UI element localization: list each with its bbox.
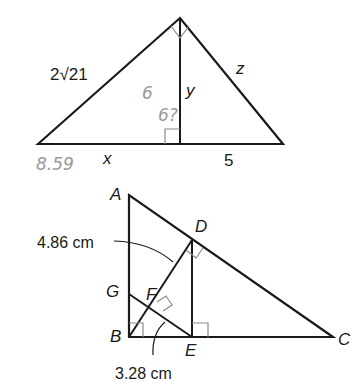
label-base-x: x [102, 149, 112, 168]
point-label-b: B [110, 327, 121, 346]
handwritten-note-859: 8.59 [36, 154, 74, 174]
point-label-f: F [146, 285, 158, 304]
label-base-5: 5 [224, 151, 233, 170]
handwritten-note-6: 6 [142, 83, 153, 103]
point-label-g: G [106, 282, 119, 301]
figure-2-triangle-abc: A B C D E F G 4.86 cm 3.28 cm [37, 185, 351, 382]
handwritten-note-6q: 6? [158, 105, 178, 125]
segment-ge [129, 294, 192, 337]
measurement-4-86: 4.86 cm [37, 234, 94, 251]
point-label-c: C [338, 330, 351, 349]
leader-4-86 [114, 241, 173, 262]
label-hypotenuse-left: 2√21 [50, 65, 88, 84]
right-angle-mark-foot [165, 129, 180, 144]
label-side-z: z [235, 59, 245, 78]
geometry-figures: 2√21 y z x 5 6 6? 8.59 A B C D E F G 4.8… [0, 0, 359, 385]
point-label-d: D [195, 217, 207, 236]
right-angle-mark-d [186, 248, 203, 258]
label-altitude-y: y [185, 81, 196, 100]
measurement-3-28: 3.28 cm [115, 365, 172, 382]
right-angle-mark-e [192, 323, 208, 337]
figure-1-right-triangle: 2√21 y z x 5 6 6? 8.59 [36, 18, 283, 174]
right-angle-mark-f [157, 296, 172, 311]
leader-3-28 [153, 322, 165, 355]
point-label-a: A [109, 185, 121, 204]
point-label-e: E [185, 341, 197, 360]
